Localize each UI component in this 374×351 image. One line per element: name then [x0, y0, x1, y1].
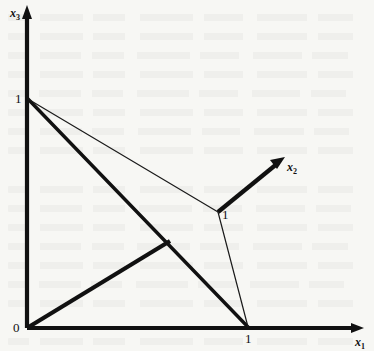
x2-axis-line-outer [218, 163, 278, 212]
x1-axis-arrow-icon [351, 323, 364, 333]
x3-unit-tick-label: 1 [15, 92, 22, 105]
origin-label: 0 [13, 321, 20, 334]
x1-unit-tick-label: 1 [245, 332, 252, 345]
x2-axis-line-inner [27, 241, 170, 328]
x2-axis-label: x2 [287, 161, 297, 176]
x3-axis-label: x3 [10, 7, 20, 22]
x3-axis-arrow-icon [22, 5, 32, 19]
simplex-figure: x3 x2 x1 0 1 1 1 [0, 0, 374, 351]
x2-unit-tick-label: 1 [222, 208, 229, 221]
simplex-drawing [0, 0, 374, 351]
simplex-edge-e3-e1 [28, 99, 248, 327]
x1-axis-label: x1 [355, 336, 365, 351]
